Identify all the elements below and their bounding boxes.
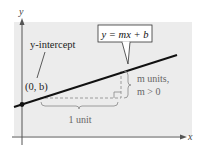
y-axis-label: y bbox=[18, 6, 24, 17]
point-label: (0, b) bbox=[25, 81, 48, 93]
diagram-canvas: y x y-intercept (0, b) y = mx + b m unit… bbox=[0, 0, 197, 149]
y-intercept-point bbox=[20, 102, 25, 107]
y-intercept-label: y-intercept bbox=[30, 39, 76, 50]
slope-intercept-diagram: y x y-intercept (0, b) y = mx + b m unit… bbox=[0, 0, 197, 149]
y-axis-arrow-icon bbox=[20, 18, 25, 25]
rise-label-line2: m > 0 bbox=[137, 86, 160, 97]
run-label: 1 unit bbox=[68, 114, 91, 125]
rise-label-line1: m units, bbox=[137, 73, 169, 84]
x-axis-label: x bbox=[187, 131, 193, 142]
formula-label: y = mx + b bbox=[101, 29, 149, 40]
